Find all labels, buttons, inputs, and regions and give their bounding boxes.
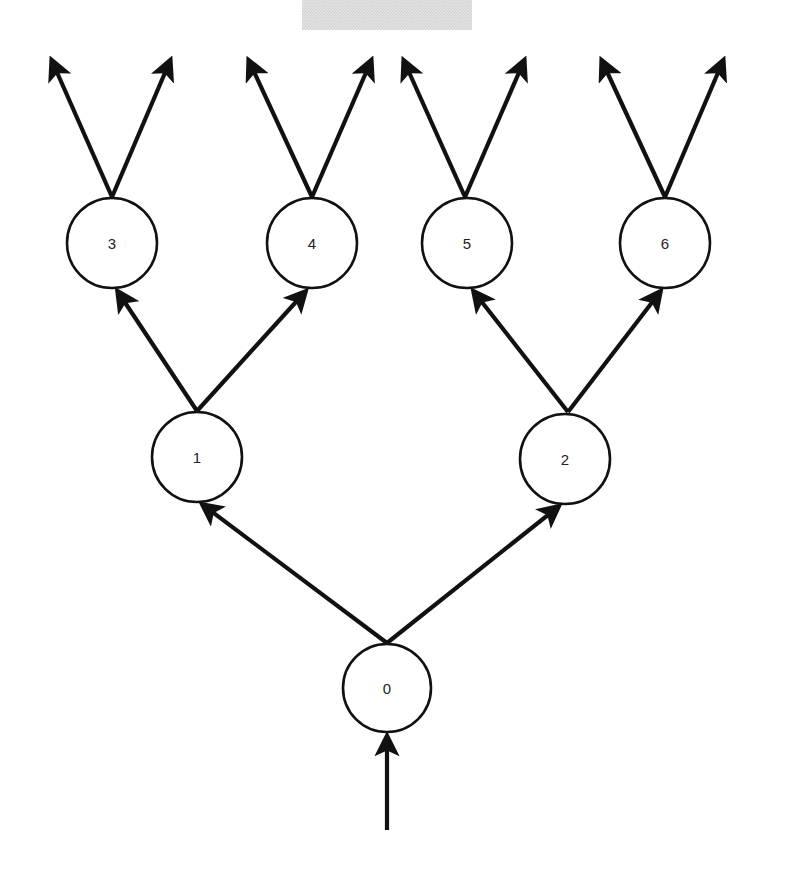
edge-arrow-4-to-out: [312, 61, 371, 197]
edge-arrow-6-to-out: [665, 61, 723, 197]
tree-node-5: 5: [422, 198, 512, 288]
tree-node-3: 3: [67, 198, 157, 288]
edge-arrow-0-to-1: [203, 505, 387, 643]
edge-arrow-6-to-out: [602, 61, 665, 197]
tree-node-0: 0: [343, 644, 431, 732]
edge-arrow-1-to-4: [197, 292, 305, 411]
tree-node-1: 1: [152, 412, 242, 502]
tree-node-4: 4: [267, 198, 357, 288]
edge-arrow-0-to-2: [387, 507, 558, 643]
edge-arrow-5-to-out: [465, 61, 524, 197]
tree-node-6: 6: [620, 198, 710, 288]
tree-node-2: 2: [520, 414, 610, 504]
edge-arrow-2-to-5: [474, 292, 568, 412]
node-label: 2: [561, 451, 569, 468]
edge-arrow-3-to-out: [112, 61, 170, 197]
edge-arrow-4-to-out: [249, 61, 312, 197]
node-label: 3: [108, 235, 116, 252]
edge-arrow-5-to-out: [404, 61, 465, 197]
edge-arrow-1-to-3: [118, 292, 197, 411]
edge-arrow-3-to-out: [52, 61, 112, 197]
tree-diagram: 0123456: [0, 0, 789, 880]
node-label: 6: [661, 235, 669, 252]
edge-arrow-2-to-6: [568, 292, 660, 412]
node-label: 5: [463, 235, 471, 252]
node-label: 4: [308, 235, 316, 252]
node-label: 1: [193, 449, 201, 466]
diagram-canvas: 0123456: [0, 0, 789, 880]
nodes-layer: 0123456: [67, 198, 710, 732]
node-label: 0: [383, 680, 391, 697]
